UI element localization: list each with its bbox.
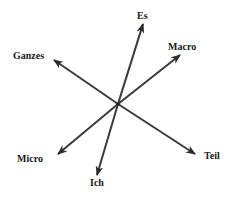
label-micro: Micro xyxy=(17,154,43,164)
arrow-macro xyxy=(118,55,180,104)
diagram-canvas: Es Ich Macro Micro Ganzes Teil xyxy=(0,0,235,200)
label-es: Es xyxy=(137,11,148,21)
arrow-micro xyxy=(58,104,118,154)
label-ich: Ich xyxy=(90,178,104,188)
arrow-ich xyxy=(97,104,118,175)
arrow-teil xyxy=(118,104,195,154)
arrow-es xyxy=(118,24,143,104)
label-teil: Teil xyxy=(204,151,220,161)
center-point xyxy=(116,102,119,105)
arrow-ganzes xyxy=(54,60,118,104)
label-macro: Macro xyxy=(168,42,196,52)
label-ganzes: Ganzes xyxy=(13,51,44,61)
axes-diagram xyxy=(0,0,235,200)
